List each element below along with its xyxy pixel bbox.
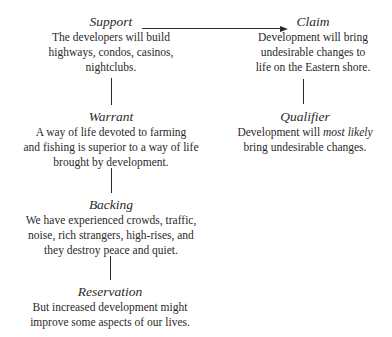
- backing-node: Backing We have experienced crowds, traf…: [0, 197, 222, 258]
- backing-line-1: We have experienced crowds, traffic,: [0, 213, 222, 228]
- reservation-line-2: improve some aspects of our lives.: [6, 315, 214, 330]
- qualifier-node: Qualifier Development will most likely b…: [222, 109, 388, 155]
- support-node: Support The developers will build highwa…: [8, 14, 214, 75]
- reservation-node: Reservation But increased development mi…: [6, 284, 214, 330]
- backing-title: Backing: [0, 197, 222, 213]
- support-line-3: nightclubs.: [8, 60, 214, 75]
- qualifier-title: Qualifier: [222, 109, 388, 125]
- support-to-warrant-connector: [111, 78, 112, 105]
- backing-line-2: noise, rich strangers, high-rises, and: [0, 228, 222, 243]
- reservation-title: Reservation: [6, 284, 214, 300]
- reservation-line-1: But increased development might: [6, 300, 214, 315]
- claim-line-3: life on the Eastern shore.: [238, 60, 388, 75]
- warrant-line-2: and fishing is superior to a way of life: [0, 140, 222, 155]
- qualifier-line-1: Development will most likely: [222, 125, 388, 140]
- qualifier-emphasis: most likely: [323, 126, 373, 138]
- claim-line-1: Development will bring: [238, 30, 388, 45]
- support-line-1: The developers will build: [8, 30, 214, 45]
- warrant-to-backing-connector: [111, 168, 112, 193]
- warrant-node: Warrant A way of life devoted to farming…: [0, 109, 222, 170]
- claim-node: Claim Development will bring undesirable…: [238, 14, 388, 75]
- backing-line-3: they destroy peace and quiet.: [0, 243, 222, 258]
- claim-line-2: undesirable changes to: [238, 45, 388, 60]
- claim-title: Claim: [238, 14, 388, 30]
- warrant-line-1: A way of life devoted to farming: [0, 125, 222, 140]
- qualifier-line-1-pre: Development will: [237, 126, 323, 138]
- qualifier-line-2: bring undesirable changes.: [222, 140, 388, 155]
- claim-to-qualifier-connector: [303, 79, 304, 104]
- support-line-2: highways, condos, casinos,: [8, 45, 214, 60]
- backing-to-reservation-connector: [110, 256, 111, 280]
- warrant-title: Warrant: [0, 109, 222, 125]
